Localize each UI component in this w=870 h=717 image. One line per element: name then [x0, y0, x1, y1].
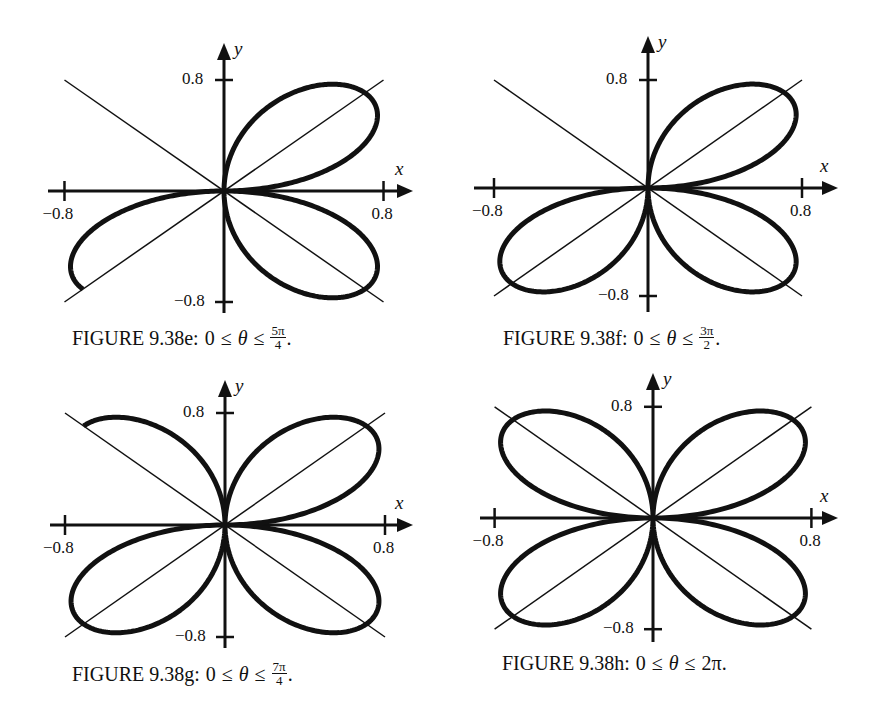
caption-relation-1: ≤: [652, 652, 663, 674]
y-tick-label-pos: 0.8: [611, 397, 632, 414]
x-tick-label-neg: −0.8: [473, 532, 504, 549]
caption-upper-bound: 2π: [702, 652, 722, 674]
caption-relation-2: ≤: [685, 652, 696, 674]
caption-lower-bound: 0: [636, 652, 646, 674]
x-tick-label-pos: 0.8: [799, 532, 820, 549]
figure-caption: FIGURE 9.38h:0≤θ≤2π.: [502, 652, 727, 674]
plot-canvas: [0, 0, 870, 717]
y-axis-label: y: [663, 369, 671, 388]
caption-variable: θ: [669, 652, 679, 674]
caption-label: FIGURE 9.38h:: [502, 652, 630, 674]
x-axis-arrow-icon: [822, 511, 838, 525]
x-axis-label: x: [820, 486, 828, 505]
y-axis-arrow-icon: [646, 373, 660, 390]
y-tick-label-neg: −0.8: [603, 619, 634, 636]
caption-period: .: [722, 652, 727, 674]
